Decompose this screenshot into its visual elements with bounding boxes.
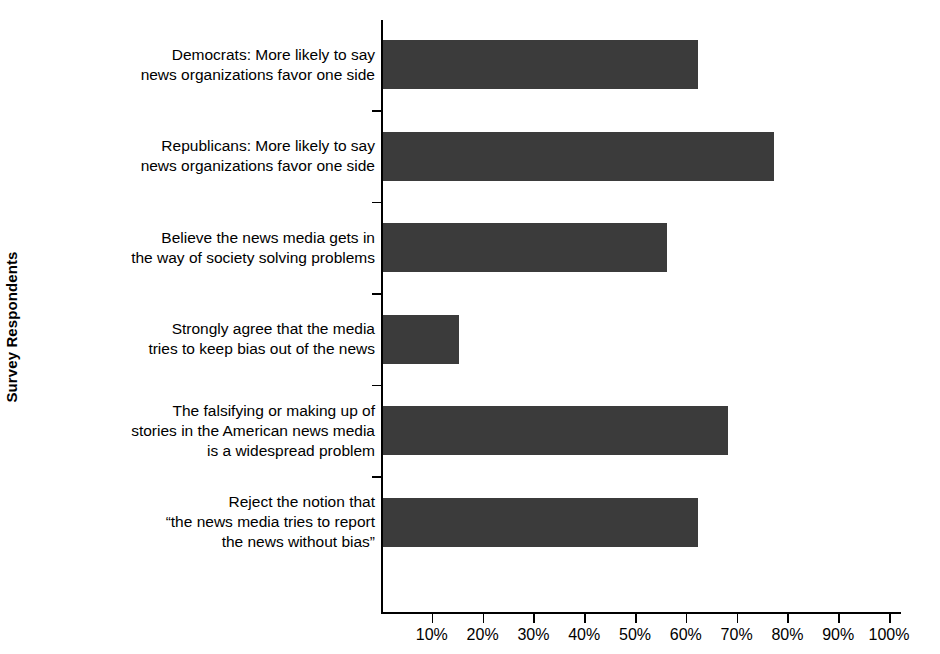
x-axis-tick-label: 90% <box>822 626 854 644</box>
x-axis-tick-label: 60% <box>670 626 702 644</box>
category-label: Believe the news media gets in the way o… <box>28 228 375 268</box>
x-axis-tick-label: 70% <box>721 626 753 644</box>
x-axis-tick <box>787 614 789 623</box>
y-axis-title: Survey Respondents <box>0 0 22 654</box>
x-axis-tick <box>584 614 586 623</box>
category-label: The falsifying or making up of stories i… <box>28 401 375 461</box>
bar <box>383 406 728 455</box>
category-label: Strongly agree that the media tries to k… <box>28 319 375 359</box>
x-axis-tick-label: 80% <box>771 626 803 644</box>
x-axis-tick <box>889 614 891 623</box>
x-axis-tick <box>635 614 637 623</box>
y-axis-tick <box>372 202 381 204</box>
x-axis-tick <box>737 614 739 623</box>
x-axis-tick-label: 10% <box>416 626 448 644</box>
bar <box>383 498 698 547</box>
y-axis-tick <box>372 476 381 478</box>
x-axis-tick <box>483 614 485 623</box>
category-label-column: Democrats: More likely to say news organ… <box>28 20 375 614</box>
x-axis-tick <box>686 614 688 623</box>
x-axis-tick-label: 50% <box>619 626 651 644</box>
category-label: Reject the notion that “the news media t… <box>28 492 375 552</box>
category-label: Democrats: More likely to say news organ… <box>28 45 375 85</box>
x-axis-tick-label: 30% <box>517 626 549 644</box>
bar <box>383 132 774 181</box>
bar <box>383 223 667 272</box>
category-label: Republicans: More likely to say news org… <box>28 136 375 176</box>
bar <box>383 315 459 364</box>
plot-area: 10%20%30%40%50%60%70%80%90%100% <box>381 20 921 614</box>
x-axis-tick-label: 100% <box>869 626 910 644</box>
bar-chart: Survey Respondents Democrats: More likel… <box>0 0 940 654</box>
bar <box>383 40 698 89</box>
x-axis-tick-label: 20% <box>467 626 499 644</box>
y-axis-tick <box>372 293 381 295</box>
x-axis-tick <box>533 614 535 623</box>
x-axis-line <box>381 612 901 614</box>
x-axis-tick <box>432 614 434 623</box>
y-axis-tick <box>372 110 381 112</box>
y-axis-tick <box>372 385 381 387</box>
x-axis-tick <box>838 614 840 623</box>
x-axis-tick-label: 40% <box>568 626 600 644</box>
